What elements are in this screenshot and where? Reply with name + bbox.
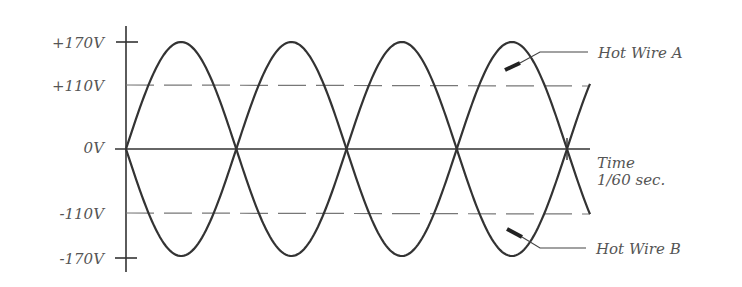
ref-line-minus-110 [126,213,590,214]
y-label-plus-170: +170V [52,34,106,52]
wire-a-marker [505,63,520,70]
voltage-diagram: +170V +110V 0V -110V -170V Time 1/60 sec… [0,0,742,287]
wire-a-leader [520,52,588,63]
y-label-zero: 0V [84,139,107,157]
wire-b-label: Hot Wire B [595,240,681,258]
y-label-plus-110: +110V [52,77,106,95]
y-label-minus-170: -170V [59,250,106,268]
y-label-minus-110: -110V [59,205,106,223]
time-label: Time [597,154,635,172]
wire-a-label: Hot Wire A [597,44,683,62]
time-period-label: 1/60 sec. [597,171,665,189]
ref-line-plus-110 [126,85,590,86]
wire-b-marker [507,229,522,237]
